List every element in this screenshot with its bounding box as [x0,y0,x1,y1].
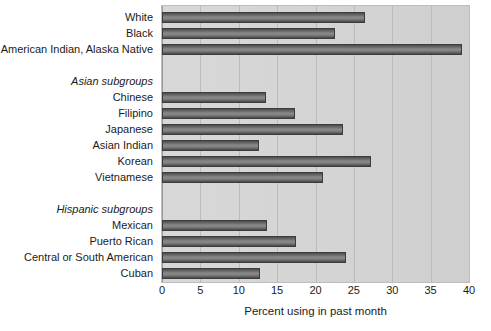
bar-row [162,266,469,282]
x-tick-label: 25 [348,284,360,296]
category-label: Chinese [0,89,156,105]
bar-row [162,170,469,186]
bar [162,172,323,183]
bar-row [162,138,469,154]
bar [162,92,266,103]
category-label: Korean [0,153,156,169]
category-label: Mexican [0,217,156,233]
bar-row [162,122,469,138]
bar-row [162,10,469,26]
bar [162,156,371,167]
bar [162,28,335,39]
x-tick-label: 5 [197,284,203,296]
bar [162,108,295,119]
x-tick-label: 20 [309,284,321,296]
category-label: Cuban [0,265,156,281]
bar-row [162,90,469,106]
gridline-40 [469,6,470,282]
x-tick-label: 10 [233,284,245,296]
group-header-label: Asian subgroups [0,73,156,89]
bar [162,236,296,247]
bar-row [162,218,469,234]
bar-row [162,250,469,266]
plot-area [161,5,470,283]
category-label: Central or South American [0,249,156,265]
category-label: Asian Indian [0,137,156,153]
bar-chart: WhiteBlackAmerican Indian, Alaska Native… [0,0,491,331]
bar [162,220,267,231]
category-label: Filipino [0,105,156,121]
group-header-label: Hispanic subgroups [0,201,156,217]
x-tick-label: 35 [425,284,437,296]
category-label: American Indian, Alaska Native [0,41,156,57]
category-label: White [0,9,156,25]
x-tick-label: 0 [159,284,165,296]
bar [162,44,462,55]
bar-row [162,154,469,170]
x-tick-label: 30 [386,284,398,296]
category-label: Puerto Rican [0,233,156,249]
bar [162,124,343,135]
bar [162,12,365,23]
category-axis-labels: WhiteBlackAmerican Indian, Alaska Native… [0,5,156,283]
bar-row [162,234,469,250]
spacer-row [0,57,156,73]
bar-row [162,106,469,122]
bar [162,268,260,279]
category-label: Japanese [0,121,156,137]
x-axis-title: Percent using in past month [161,305,470,317]
bar [162,252,346,263]
category-label: Vietnamese [0,169,156,185]
x-tick-label: 15 [271,284,283,296]
x-axis-ticks: 0510152025303540 [161,284,470,302]
category-label: Black [0,25,156,41]
x-tick-label: 40 [463,284,475,296]
bar-row [162,42,469,58]
bar [162,140,259,151]
spacer-row [0,185,156,201]
bar-row [162,26,469,42]
